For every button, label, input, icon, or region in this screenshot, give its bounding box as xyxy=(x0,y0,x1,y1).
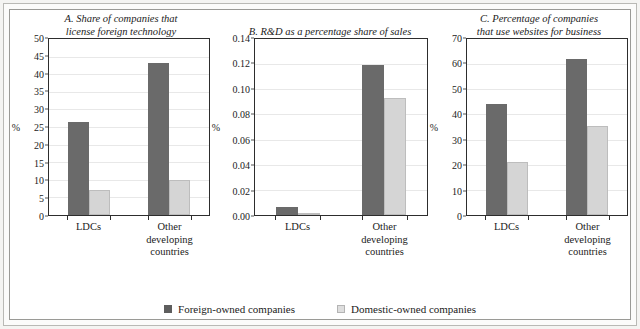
panel-b-xtick-mark xyxy=(362,216,363,220)
panel-a-plot-area xyxy=(48,38,210,216)
panel-c-xtick-mark xyxy=(485,216,486,220)
panel-a-ytick-label: 30 xyxy=(34,104,44,115)
panel-a-y-axis-label: % xyxy=(10,38,22,216)
panel-b-ytick-label: 0.12 xyxy=(233,58,251,69)
panel-b-y-axis-label: % xyxy=(210,38,222,216)
panel-b-x-labels: LDCsOtherdevelopingcountries xyxy=(254,216,428,272)
panel-b-title-line-1: B. R&D as a percentage share of sales xyxy=(238,26,422,39)
chart-panel-b: B. R&D as a percentage share of sales % … xyxy=(210,10,428,278)
panel-c-title-line-1: C. Percentage of companies xyxy=(456,13,622,26)
panel-b-x-axis: LDCsOtherdevelopingcountries xyxy=(210,216,428,272)
panel-a-x-axis: LDCsOtherdevelopingcountries xyxy=(10,216,210,272)
panel-b-xtick-mark xyxy=(407,216,408,220)
panel-a-x-labels: LDCsOtherdevelopingcountries xyxy=(48,216,210,272)
panel-a-ytick-label: 35 xyxy=(34,86,44,97)
panel-a-ytick-label: 40 xyxy=(34,68,44,79)
legend-label-foreign: Foreign-owned companies xyxy=(178,303,295,315)
panel-a-ytick-label: 25 xyxy=(34,122,44,133)
panel-b-ytick-label: 0.14 xyxy=(233,33,251,44)
panel-c-xlabel: Otherdevelopingcountries xyxy=(564,221,611,259)
panel-a-title-line-2: license foreign technology xyxy=(38,26,204,39)
panel-b-plot-area xyxy=(254,38,428,216)
panel-a-xtick-mark xyxy=(148,216,149,220)
panel-c-ytick-label: 10 xyxy=(452,185,462,196)
panel-c-xtick-mark xyxy=(528,216,529,220)
panel-b-ytick-label: 0.04 xyxy=(233,160,251,171)
bar-b-domestic-1 xyxy=(384,98,406,215)
panel-c-y-axis-label: % xyxy=(428,38,440,216)
bar-b-foreign-1 xyxy=(362,65,384,215)
panel-c-x-labels: LDCsOtherdevelopingcountries xyxy=(466,216,628,272)
panel-c-plot-area xyxy=(466,38,628,216)
panel-a-ytick-label: 50 xyxy=(34,33,44,44)
chart-panel-c: C. Percentage of companies that use webs… xyxy=(428,10,628,278)
panel-a-xtick-mark xyxy=(110,216,111,220)
panel-b-ytick-label: 0.06 xyxy=(233,134,251,145)
legend-swatch-foreign-icon xyxy=(164,305,172,313)
panel-b-xlabel: LDCs xyxy=(285,221,310,234)
panel-a-xtick-mark xyxy=(191,216,192,220)
bar-c-foreign-0 xyxy=(486,104,507,215)
figure-container: A. Share of companies that license forei… xyxy=(0,0,640,329)
panel-b-xtick-mark xyxy=(275,216,276,220)
panel-c-xlabel: LDCs xyxy=(494,221,519,234)
bar-c-domestic-0 xyxy=(507,162,528,215)
panel-a-ytick-label: 20 xyxy=(34,139,44,150)
panel-c-bars xyxy=(467,39,627,215)
legend-label-domestic: Domestic-owned companies xyxy=(351,303,476,315)
panel-c-ytick-label: 30 xyxy=(452,134,462,145)
panel-b-ytick-label: 0.08 xyxy=(233,109,251,120)
panel-c-ytick-label: 60 xyxy=(452,58,462,69)
legend-swatch-domestic-icon xyxy=(337,305,345,313)
panel-a-ytick-label: 10 xyxy=(34,175,44,186)
panel-c-y-ticks: 010203040506070 xyxy=(440,38,466,216)
panel-c-ytick-label: 40 xyxy=(452,109,462,120)
legend-item-domestic: Domestic-owned companies xyxy=(337,303,476,315)
panel-a-plot-row: % 05101520253035404550 xyxy=(10,38,210,216)
panel-b-xlabel: Otherdevelopingcountries xyxy=(361,221,408,259)
panel-b-plot-row: % 0.000.020.040.060.080.100.120.14 xyxy=(210,38,428,216)
panel-a-ytick-label: 15 xyxy=(34,157,44,168)
bar-b-foreign-0 xyxy=(276,207,298,215)
panel-b-y-ticks: 0.000.020.040.060.080.100.120.14 xyxy=(222,38,254,216)
panel-a-ytick-label: 5 xyxy=(39,193,44,204)
panel-a-title-line-1: A. Share of companies that xyxy=(38,13,204,26)
panel-b-xtick-mark xyxy=(320,216,321,220)
panel-b-ytick-label: 0.10 xyxy=(233,83,251,94)
panel-c-xtick-mark xyxy=(566,216,567,220)
bar-c-domestic-1 xyxy=(587,126,608,215)
panel-c-ytick-label: 70 xyxy=(452,33,462,44)
bar-a-domestic-0 xyxy=(89,190,110,215)
panel-b-bars xyxy=(255,39,427,215)
panel-c-title-line-2: that use websites for business xyxy=(456,26,622,39)
panel-c-x-axis: LDCsOtherdevelopingcountries xyxy=(428,216,628,272)
bar-a-domestic-1 xyxy=(169,180,190,215)
panel-a-xlabel: Otherdevelopingcountries xyxy=(146,221,193,259)
bar-a-foreign-1 xyxy=(148,63,169,215)
panel-a-y-ticks: 05101520253035404550 xyxy=(22,38,48,216)
panel-a-xlabel: LDCs xyxy=(76,221,101,234)
chart-panel-a: A. Share of companies that license forei… xyxy=(10,10,210,278)
bar-b-domestic-0 xyxy=(298,213,320,216)
bar-a-foreign-0 xyxy=(68,122,89,215)
panel-a-ytick-label: 45 xyxy=(34,50,44,61)
bar-c-foreign-1 xyxy=(566,59,587,215)
panel-a-bars xyxy=(49,39,209,215)
chart-panels: A. Share of companies that license forei… xyxy=(10,10,630,278)
chart-legend: Foreign-owned companies Domestic-owned c… xyxy=(10,303,630,315)
panel-c-plot-row: % 010203040506070 xyxy=(428,38,628,216)
panel-c-ytick-label: 20 xyxy=(452,160,462,171)
panel-c-ytick-label: 50 xyxy=(452,83,462,94)
panel-a-xtick-mark xyxy=(67,216,68,220)
legend-item-foreign: Foreign-owned companies xyxy=(164,303,295,315)
panel-c-xtick-mark xyxy=(609,216,610,220)
panel-b-ytick-label: 0.02 xyxy=(233,185,251,196)
